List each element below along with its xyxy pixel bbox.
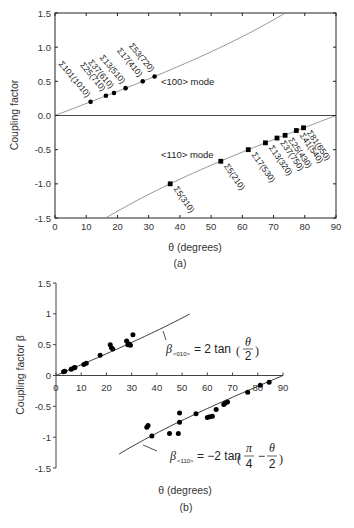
svg-text:): ) xyxy=(279,452,283,466)
figure: 01020304050607080901.51.00.50.0-0.5-1.0-… xyxy=(0,0,354,528)
svg-text:<110>: <110> xyxy=(177,458,194,464)
svg-text:): ) xyxy=(255,344,259,358)
data-point-010 xyxy=(62,369,67,374)
x-tick-label: 50 xyxy=(177,382,188,393)
data-point-110 xyxy=(149,433,154,438)
data-point-110 xyxy=(263,140,268,145)
y-tick-label: 0.5 xyxy=(38,339,51,350)
svg-text:−: − xyxy=(258,449,265,463)
svg-text:(: ( xyxy=(236,344,240,358)
data-point-110 xyxy=(246,147,251,152)
y-tick-label: 0.0 xyxy=(38,110,51,121)
svg-text:<010>: <010> xyxy=(173,351,191,357)
formula-110: β<110>= −2 tan(π4−θ2) xyxy=(169,441,283,471)
x-tick-label: 50 xyxy=(206,221,217,232)
data-point-110 xyxy=(193,411,198,416)
data-point-110 xyxy=(245,390,250,395)
x-tick-label: 60 xyxy=(237,221,248,232)
data-point-110 xyxy=(218,159,223,164)
data-point-110 xyxy=(275,136,280,141)
panel-a-chart: 01020304050607080901.51.00.50.0-0.5-1.0-… xyxy=(8,0,341,269)
y-tick-label: -1 xyxy=(43,432,51,443)
data-point-100 xyxy=(88,100,93,105)
x-tick-label: 20 xyxy=(101,382,112,393)
y-tick-label: 1.0 xyxy=(38,42,51,53)
x-tick-label: 0 xyxy=(52,221,57,232)
data-point-010 xyxy=(98,353,103,358)
data-point-110 xyxy=(258,383,263,388)
data-point-110 xyxy=(301,125,306,130)
y-tick-label: -1.5 xyxy=(35,463,51,474)
data-point-110 xyxy=(267,380,272,385)
y-tick-label: -0.5 xyxy=(35,401,51,412)
point-label: Σ5(310) xyxy=(172,184,197,214)
data-point-100 xyxy=(152,74,157,79)
data-point-010 xyxy=(72,365,77,370)
y-tick-label: 1.5 xyxy=(38,278,51,289)
data-point-110 xyxy=(294,128,299,133)
x-tick-label: 40 xyxy=(152,382,163,393)
svg-text:= 2 tan: = 2 tan xyxy=(194,342,231,356)
x-tick-label: 10 xyxy=(81,221,92,232)
data-point-110 xyxy=(283,133,288,138)
data-point-110 xyxy=(177,411,182,416)
x-tick-label: 30 xyxy=(126,382,137,393)
svg-text:θ: θ xyxy=(245,335,251,349)
data-point-110 xyxy=(225,400,230,405)
x-tick-label: 20 xyxy=(112,221,123,232)
data-point-110 xyxy=(214,407,219,412)
panel-b-chart: 1.510.50-0.5-1-1.50102030405060708090β<0… xyxy=(14,278,288,514)
x-tick-label: 90 xyxy=(278,382,289,393)
panel-caption: (a) xyxy=(174,257,187,269)
y-tick-label: 1.5 xyxy=(38,8,51,19)
data-point-110 xyxy=(168,181,173,186)
y-axis-label: Coupling factor xyxy=(8,79,20,150)
mode-110-label: <110> mode xyxy=(161,149,214,160)
y-tick-label: -1.0 xyxy=(35,178,51,189)
data-point-010 xyxy=(130,332,135,337)
svg-text:= −2 tan: = −2 tan xyxy=(197,449,241,463)
y-axis-label: Coupling factor β xyxy=(14,335,26,415)
data-point-110 xyxy=(176,431,181,436)
x-tick-label: 60 xyxy=(202,382,213,393)
x-tick-label: 80 xyxy=(299,221,310,232)
leader-line xyxy=(143,445,157,451)
y-tick-label: -0.5 xyxy=(35,144,51,155)
x-tick-label: 40 xyxy=(175,221,186,232)
panel-caption: (b) xyxy=(180,501,193,513)
mode-100-label: <100> mode xyxy=(161,76,214,87)
svg-text:(: ( xyxy=(237,452,241,466)
x-tick-label: 10 xyxy=(76,382,87,393)
x-tick-label: 70 xyxy=(268,221,279,232)
data-point-110 xyxy=(210,414,215,419)
x-tick-label: 0 xyxy=(53,382,58,393)
leader-line xyxy=(163,331,166,340)
svg-text:β: β xyxy=(169,449,176,463)
y-tick-label: 1 xyxy=(46,308,51,319)
data-point-100 xyxy=(123,86,128,91)
x-tick-label: 70 xyxy=(227,382,238,393)
formula-010: β<010>= 2 tan(θ2) xyxy=(165,335,259,363)
curve-100 xyxy=(55,0,336,115)
data-point-100 xyxy=(104,93,109,98)
svg-text:β: β xyxy=(165,342,172,356)
point-label: Σ5(210) xyxy=(222,162,247,192)
x-axis-label: θ (degrees) xyxy=(158,484,212,496)
data-point-010 xyxy=(110,346,115,351)
x-tick-label: 90 xyxy=(331,221,342,232)
x-tick-label: 30 xyxy=(143,221,154,232)
data-point-010 xyxy=(128,343,133,348)
data-point-110 xyxy=(167,431,172,436)
svg-text:π: π xyxy=(246,441,253,455)
y-tick-label: -1.5 xyxy=(35,213,51,224)
data-point-110 xyxy=(177,420,182,425)
data-point-110 xyxy=(146,423,151,428)
y-tick-label: 0 xyxy=(46,370,51,381)
svg-text:θ: θ xyxy=(269,441,275,455)
data-point-010 xyxy=(84,361,89,366)
y-tick-label: 0.5 xyxy=(38,76,51,87)
svg-text:4: 4 xyxy=(246,457,253,471)
data-point-100 xyxy=(140,79,145,84)
svg-text:2: 2 xyxy=(269,457,276,471)
x-axis-label: θ (degrees) xyxy=(168,241,222,253)
